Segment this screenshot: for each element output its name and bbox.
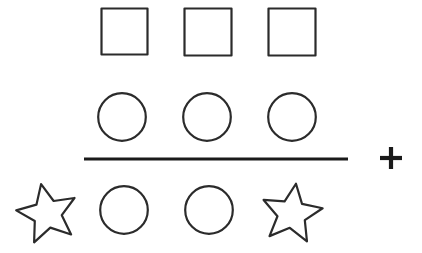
circle-shape — [100, 186, 148, 234]
star-shape — [259, 180, 326, 243]
square-shape — [102, 9, 148, 55]
bottom-row-shapes — [12, 178, 326, 245]
top-row-squares — [102, 9, 316, 56]
circle-shape — [185, 186, 233, 234]
circle-shape — [98, 93, 146, 141]
circle-shape — [268, 93, 316, 141]
star-shape — [12, 178, 82, 245]
plus-icon — [380, 147, 402, 169]
circle-shape — [183, 93, 231, 141]
middle-row-circles — [98, 93, 316, 141]
square-shape — [185, 9, 232, 56]
square-shape — [269, 9, 316, 56]
shape-diagram — [0, 0, 422, 253]
figure-canvas: Shape grid with horizontal dividing line… — [0, 0, 422, 253]
